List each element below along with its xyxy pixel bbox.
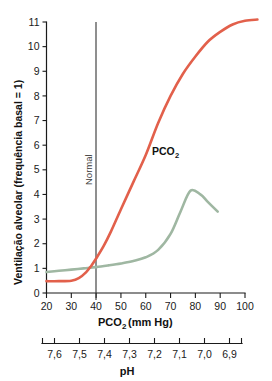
pco2-annotation: PCO 2 [152, 145, 179, 160]
x-tick-label: 50 [115, 300, 127, 312]
x-tick-label: 100 [236, 300, 254, 312]
x-tick-label: 40 [90, 300, 102, 312]
y-axis-title: Ventilação alveolar (frequência basal = … [12, 80, 24, 285]
chart-svg: Ventilação alveolar (frequência basal = … [0, 0, 272, 381]
x-axis-title: PCO 2 (mm Hg) [98, 316, 173, 331]
ph-tick-label: 7,0 [197, 348, 212, 360]
ph-tick-label: 6,9 [222, 348, 237, 360]
ph-curve [47, 190, 218, 272]
ph-tick-label: 7,5 [72, 348, 87, 360]
x-tick-label: 60 [140, 300, 152, 312]
y-tick-label: 0 [34, 287, 40, 299]
y-tick-label: 9 [34, 65, 40, 77]
y-tick-label: 10 [28, 40, 40, 52]
ventilation-chart-figure: Ventilação alveolar (frequência basal = … [0, 0, 272, 381]
y-axis-ticks: 01234567891011 [28, 16, 47, 299]
ph-tick-label: 7,3 [122, 348, 137, 360]
ph-axis-title: pH [120, 365, 135, 377]
ph-tick-label: 7,6 [47, 348, 62, 360]
ph-axis-ticks: 7,67,57,47,37,27,17,06,9 [43, 338, 242, 360]
ph-tick-label: 7,1 [172, 348, 187, 360]
normal-annotation-label: Normal [83, 154, 94, 185]
y-tick-label: 11 [29, 16, 40, 28]
y-axis-title-text: Ventilação alveolar (frequência basal = … [12, 80, 24, 285]
x-axis-title-unit: (mm Hg) [128, 316, 173, 328]
x-axis-title-main: PCO [98, 316, 122, 328]
x-tick-label: 30 [65, 300, 77, 312]
ph-axis: 7,67,57,47,37,27,17,06,9 pH [42, 338, 242, 377]
y-tick-label: 8 [34, 90, 40, 102]
x-tick-label: 70 [165, 300, 177, 312]
x-tick-label: 80 [190, 300, 202, 312]
y-tick-label: 7 [34, 114, 40, 126]
x-tick-label: 20 [41, 300, 53, 312]
x-tick-label: 90 [214, 300, 226, 312]
y-tick-label: 2 [34, 237, 40, 249]
pco2-annotation-label: PCO [152, 145, 175, 157]
y-tick-label: 6 [34, 139, 40, 151]
y-tick-label: 5 [34, 163, 40, 175]
ph-tick-label: 7,2 [147, 348, 162, 360]
y-tick-label: 4 [34, 188, 40, 200]
x-axis-ticks: 2030405060708090100 [41, 293, 254, 312]
y-tick-label: 1 [34, 262, 40, 274]
x-axis-title-subscript: 2 [122, 322, 127, 331]
y-tick-label: 3 [34, 213, 40, 225]
ph-tick-label: 7,4 [97, 348, 112, 360]
pco2-annotation-subscript: 2 [175, 151, 179, 160]
